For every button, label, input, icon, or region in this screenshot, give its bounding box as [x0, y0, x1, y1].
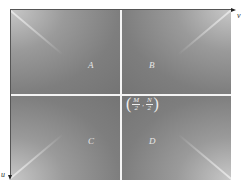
quadrant-label-b: B — [149, 60, 155, 70]
open-paren: ( — [126, 96, 131, 112]
quadrant-a — [10, 9, 121, 94]
v-axis-line — [10, 9, 232, 10]
u-axis-label: u — [1, 170, 5, 179]
fraction-m-over-2: M 2 — [132, 97, 140, 112]
corner-streak — [177, 133, 231, 180]
comma: , — [142, 100, 144, 108]
close-paren: ) — [154, 96, 159, 112]
quadrant-label-d: D — [149, 136, 156, 146]
u-axis-line — [10, 9, 11, 177]
quadrant-c — [10, 94, 121, 180]
center-point-label: ( M 2 , N 2 ) — [126, 96, 159, 112]
fraction-n-over-2: N 2 — [146, 97, 153, 112]
quadrant-label-a: A — [88, 60, 94, 70]
denominator-2: 2 — [135, 105, 139, 112]
v-axis-label: v — [237, 11, 241, 20]
quadrant-label-c: C — [88, 136, 94, 146]
v-axis-arrow-icon — [231, 8, 236, 12]
horizontal-divider — [10, 94, 231, 96]
corner-streak — [10, 9, 64, 56]
spectrum-image: A B C D ( M 2 , N 2 ) — [10, 9, 231, 180]
denominator-2: 2 — [148, 105, 152, 112]
quadrant-b — [121, 9, 231, 94]
u-axis-arrow-icon — [8, 175, 12, 180]
corner-streak — [10, 133, 64, 180]
corner-streak — [177, 9, 231, 56]
